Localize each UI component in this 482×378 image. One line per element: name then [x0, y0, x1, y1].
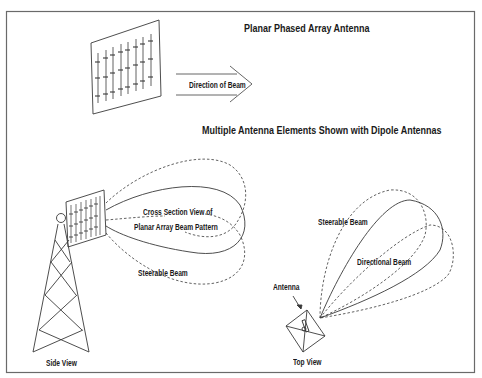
- cross-section-label-line2: Planar Array Beam Pattern: [134, 222, 218, 232]
- side-array-panel: [66, 190, 106, 247]
- diagram-svg: [0, 0, 482, 378]
- top-beam-patterns: [320, 190, 453, 318]
- figure-frame: [7, 12, 475, 373]
- planar-array-panel: [91, 20, 161, 114]
- cross-section-label-line1: Cross Section View of: [143, 207, 213, 217]
- side-steerable-beam-label: Steerable Beam: [138, 268, 188, 278]
- antenna-label: Antenna: [273, 282, 300, 292]
- diagram-canvas: Planar Phased Array Antenna Direction of…: [0, 0, 482, 378]
- figure-subtitle: Multiple Antenna Elements Shown with Dip…: [202, 124, 442, 136]
- arrow-label: Direction of Beam: [189, 80, 246, 90]
- tower: [33, 214, 89, 353]
- top-steerable-beam-label: Steerable Beam: [318, 217, 368, 227]
- top-view-antenna: [286, 296, 325, 352]
- directional-beam-label: Directional Beam: [357, 257, 411, 267]
- figure-title: Planar Phased Array Antenna: [244, 22, 369, 34]
- steerable-beam-dashed-a: [320, 190, 426, 318]
- top-view-caption: Top View: [293, 357, 321, 367]
- side-view-caption: Side View: [46, 358, 77, 368]
- steerable-beam-dashed-b: [320, 225, 453, 318]
